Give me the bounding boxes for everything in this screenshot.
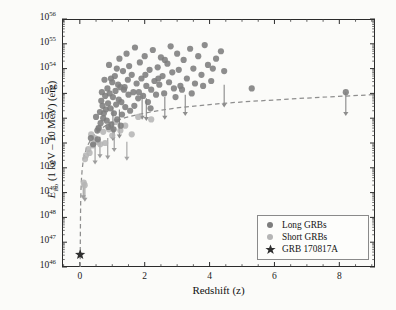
legend-label-grb-170817a: GRB 170817A: [282, 244, 338, 254]
x-tick-label: 0: [60, 272, 100, 282]
legend-item-grb-170817a: GRB 170817A: [263, 243, 363, 255]
short-grb-points: [81, 114, 155, 188]
long-grb-marker-icon: [263, 222, 277, 228]
y-axis-units: (1 keV – 10 MeV) (erg): [46, 81, 57, 181]
star-marker-icon: [263, 244, 277, 255]
x-tick-label: 8: [319, 272, 359, 282]
y-axis-symbol: E: [46, 192, 57, 198]
x-tick-label: 4: [190, 272, 230, 282]
figure-container: 1046104710481049105010511052105310541055…: [0, 0, 396, 310]
chart-legend: Long GRBs Short GRBs GRB 170817A: [257, 215, 369, 260]
y-axis-label: Eiso (1 keV – 10 MeV) (erg): [46, 16, 57, 264]
legend-label-long-grbs: Long GRBs: [282, 220, 327, 230]
x-axis-label: Redshift (z): [62, 284, 375, 296]
long-grb-points: [88, 42, 349, 147]
x-tick-label: 2: [125, 272, 165, 282]
legend-label-short-grbs: Short GRBs: [282, 232, 327, 242]
chart-canvas: [0, 0, 396, 310]
x-tick-label: 6: [254, 272, 294, 282]
y-axis-subscript: iso: [52, 184, 60, 192]
legend-item-short-grbs: Short GRBs: [263, 231, 363, 243]
short-grb-marker-icon: [263, 234, 277, 240]
legend-item-long-grbs: Long GRBs: [263, 219, 363, 231]
